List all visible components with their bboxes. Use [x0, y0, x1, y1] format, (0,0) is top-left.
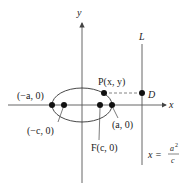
- label-focus: F(c, 0): [91, 142, 118, 154]
- x-axis-label: x: [168, 99, 174, 110]
- leader-pos-a: [113, 108, 118, 118]
- point-pos-a: [109, 102, 115, 108]
- equation-denominator: c: [171, 156, 175, 165]
- point-focus: [97, 102, 103, 108]
- directrix-label: L: [138, 31, 145, 42]
- label-d: D: [147, 89, 156, 100]
- label-p: P(x, y): [98, 76, 125, 88]
- point-neg-c: [61, 102, 67, 108]
- point-d: [139, 90, 145, 96]
- label-neg-a: (−a, 0): [17, 90, 44, 102]
- equation-numerator: a: [170, 144, 174, 153]
- label-pos-a: (a, 0): [112, 119, 133, 131]
- label-neg-c: (−c, 0): [27, 125, 54, 137]
- leader-neg-c: [58, 108, 63, 122]
- y-axis-label: y: [76, 7, 82, 18]
- leader-focus: [99, 108, 100, 140]
- ellipse-directrix-diagram: x y L (−a, 0) (−c, 0) F(c, 0) (a, 0) P(x…: [0, 0, 183, 183]
- point-neg-a: [49, 102, 55, 108]
- equation-lhs: x =: [147, 149, 162, 160]
- equation-superscript: 2: [175, 142, 178, 148]
- point-p: [101, 90, 107, 96]
